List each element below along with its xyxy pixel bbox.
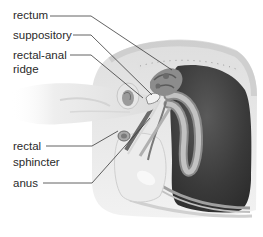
label-suppository: suppository	[13, 29, 72, 42]
sphincter	[118, 131, 130, 141]
anatomical-diagram: rectum suppository rectal-anal ridge rec…	[0, 0, 263, 237]
label-anus: anus	[13, 177, 38, 190]
label-rectal-sphincter: rectal sphincter	[13, 140, 60, 169]
pelvic-tissue	[115, 133, 166, 202]
label-rectum: rectum	[13, 9, 48, 22]
label-rectal-anal-ridge: rectal-anal ridge	[13, 49, 67, 76]
